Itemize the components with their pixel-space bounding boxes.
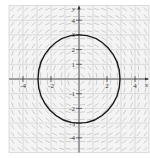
slope-field-chart: -4-224-4-3-2-11234xy: [0, 0, 150, 158]
x-tick-label: -2: [48, 82, 54, 90]
y-tick-label: -3: [69, 120, 75, 128]
y-tick-label: -2: [69, 105, 75, 113]
y-tick-label: 3: [72, 31, 76, 39]
x-tick-label: 2: [105, 82, 109, 90]
x-tick-label: 4: [133, 82, 137, 90]
y-tick-label: 2: [72, 46, 76, 54]
y-tick-label: -4: [69, 134, 75, 142]
y-tick-label: 4: [72, 17, 76, 25]
y-tick-label: -1: [69, 90, 75, 98]
y-tick-label: 1: [72, 61, 76, 69]
x-tick-label: -4: [20, 82, 26, 90]
